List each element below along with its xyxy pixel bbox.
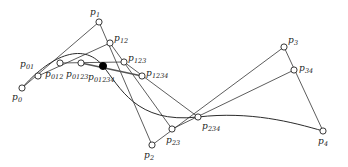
point-label-p0123: p0123 bbox=[66, 70, 88, 79]
point-label-p3: p3 bbox=[288, 36, 298, 45]
control-point-p3[interactable] bbox=[281, 44, 287, 50]
point-label-base-p34: p bbox=[299, 63, 305, 73]
point-label-base-p01: p bbox=[20, 59, 26, 69]
control-point-p23[interactable] bbox=[169, 126, 175, 132]
point-label-base-p0: p bbox=[12, 92, 18, 102]
point-label-p0: p0 bbox=[12, 93, 22, 102]
point-label-subscript-p01234: 01234 bbox=[94, 76, 115, 84]
point-label-base-p1234: p bbox=[146, 68, 152, 78]
point-label-subscript-p123: 123 bbox=[134, 57, 146, 65]
point-label-base-p3: p bbox=[288, 35, 294, 45]
point-label-p1: p1 bbox=[90, 8, 100, 17]
polygon-segment-p23-p34 bbox=[172, 70, 294, 129]
control-point-markers bbox=[19, 19, 326, 148]
control-point-p2[interactable] bbox=[149, 142, 155, 148]
control-point-p12[interactable] bbox=[107, 40, 113, 46]
point-label-subscript-p0123: 0123 bbox=[72, 73, 89, 81]
point-label-base-p12: p bbox=[114, 33, 120, 43]
point-label-subscript-p01: 01 bbox=[26, 63, 34, 71]
control-point-p234[interactable] bbox=[195, 114, 201, 120]
point-label-base-p1: p bbox=[90, 7, 96, 17]
point-label-subscript-p2: 2 bbox=[150, 154, 154, 162]
polygon-segment-p3-p4 bbox=[284, 47, 323, 131]
point-label-base-p23: p bbox=[166, 135, 172, 145]
point-label-base-p01234: p bbox=[88, 72, 94, 82]
point-label-base-p234: p bbox=[202, 121, 208, 131]
point-label-p234: p234 bbox=[202, 122, 220, 131]
point-label-p2: p2 bbox=[144, 151, 154, 160]
point-label-subscript-p12: 12 bbox=[120, 37, 128, 45]
bezier-curve bbox=[22, 53, 323, 131]
point-label-base-p123: p bbox=[128, 53, 134, 63]
point-label-subscript-p1: 1 bbox=[96, 11, 100, 19]
control-point-p01234[interactable] bbox=[99, 62, 106, 69]
control-point-p123[interactable] bbox=[121, 59, 127, 65]
point-label-subscript-p23: 23 bbox=[172, 139, 180, 147]
point-label-p01: p01 bbox=[20, 60, 34, 69]
point-label-base-p4: p bbox=[318, 136, 324, 146]
control-point-p0123[interactable] bbox=[78, 60, 84, 66]
point-label-base-p2: p bbox=[144, 150, 150, 160]
point-label-subscript-p1234: 1234 bbox=[152, 72, 169, 80]
point-label-p012: p012 bbox=[45, 70, 63, 79]
point-label-subscript-p012: 012 bbox=[51, 73, 63, 81]
control-point-p012[interactable] bbox=[57, 60, 63, 66]
control-point-p1234[interactable] bbox=[139, 73, 145, 79]
point-label-subscript-p4: 4 bbox=[324, 140, 328, 148]
bezier-de-casteljau-figure: p0p01p012p0123p01234p1p12p123p1234p2p23p… bbox=[0, 0, 348, 167]
control-point-p01[interactable] bbox=[35, 73, 41, 79]
point-label-base-p0123: p bbox=[66, 69, 72, 79]
point-label-subscript-p0: 0 bbox=[18, 96, 22, 104]
point-label-p123: p123 bbox=[128, 54, 146, 63]
point-label-p12: p12 bbox=[114, 34, 128, 43]
point-label-base-p012: p bbox=[45, 69, 51, 79]
control-point-p4[interactable] bbox=[320, 128, 326, 134]
polygon-segment-p012-p123 bbox=[60, 62, 124, 63]
bezier-curve-layer bbox=[22, 53, 323, 131]
point-label-p34: p34 bbox=[299, 64, 313, 73]
point-label-p23: p23 bbox=[166, 136, 180, 145]
point-label-subscript-p34: 34 bbox=[305, 67, 313, 75]
point-label-subscript-p3: 3 bbox=[294, 39, 298, 47]
control-point-p0[interactable] bbox=[19, 85, 25, 91]
point-label-p4: p4 bbox=[318, 137, 328, 146]
control-point-p1[interactable] bbox=[96, 19, 102, 25]
point-label-p1234: p1234 bbox=[146, 69, 168, 78]
point-label-p01234: p01234 bbox=[88, 73, 114, 82]
control-point-p34[interactable] bbox=[291, 67, 297, 73]
point-label-subscript-p234: 234 bbox=[208, 125, 220, 133]
